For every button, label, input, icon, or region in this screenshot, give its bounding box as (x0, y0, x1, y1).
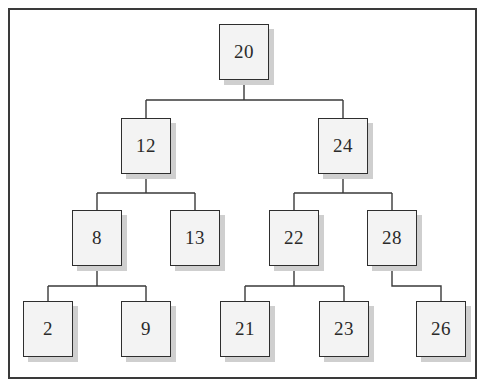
tree-node: 26 (416, 301, 466, 357)
edge-20-12-24 (146, 81, 343, 118)
node-label: 23 (334, 318, 354, 340)
node-label: 24 (333, 135, 353, 157)
edge-22-21-23 (245, 266, 344, 301)
tree-node: 9 (121, 301, 171, 357)
tree-node: 21 (220, 301, 270, 357)
node-label: 28 (382, 227, 402, 249)
tree-node: 28 (367, 210, 417, 266)
node-label: 8 (92, 227, 102, 249)
node-label: 2 (43, 318, 53, 340)
edge-28-26 (392, 266, 441, 301)
node-label: 13 (185, 227, 205, 249)
tree-node: 2 (23, 301, 73, 357)
node-label: 26 (431, 318, 451, 340)
edge-8-2-9 (48, 266, 146, 301)
node-label: 12 (136, 135, 156, 157)
tree-node: 23 (319, 301, 369, 357)
node-label: 22 (284, 227, 304, 249)
tree-node: 8 (72, 210, 122, 266)
tree-node: 24 (318, 118, 368, 174)
tree-node: 12 (121, 118, 171, 174)
tree-node: 20 (219, 24, 269, 80)
tree-node: 22 (269, 210, 319, 266)
node-label: 21 (235, 318, 255, 340)
edge-12-8-13 (97, 174, 195, 210)
edge-24-22-28 (294, 174, 392, 210)
tree-node: 13 (170, 210, 220, 266)
node-label: 20 (234, 41, 254, 63)
node-label: 9 (141, 318, 151, 340)
